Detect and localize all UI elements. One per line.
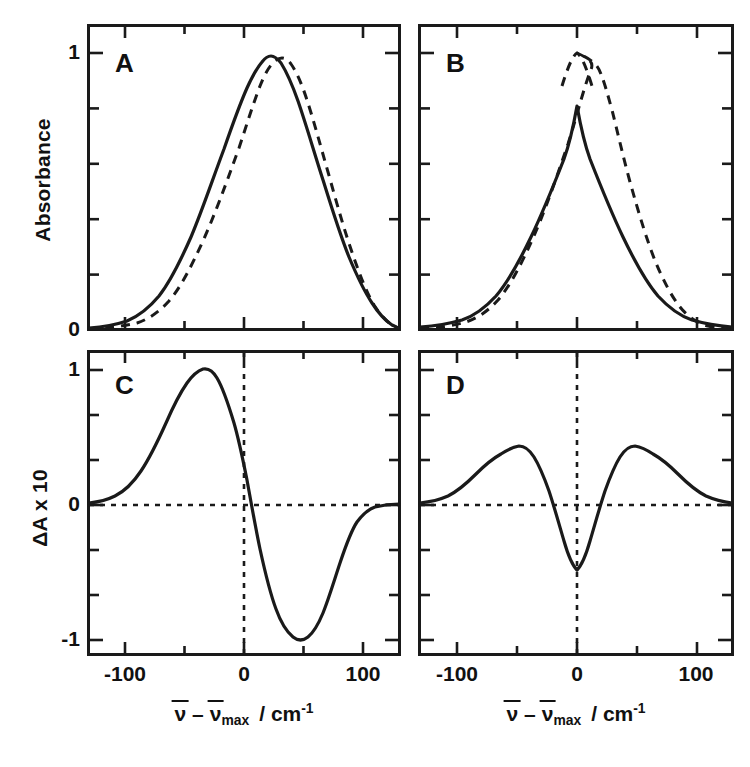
- x-axis-title-left: ν–νmax/ cm-1: [87, 700, 401, 728]
- panel-letter-c: C: [115, 370, 134, 400]
- x-tick-c-minus100: -100: [85, 662, 165, 686]
- x-axis-title-right: ν–νmax/ cm-1: [418, 700, 734, 728]
- panel-a: A: [87, 24, 401, 331]
- panel-letter-d: D: [446, 370, 465, 400]
- panel-c: C: [87, 350, 401, 656]
- y-axis-label-absorbance: Absorbance: [31, 90, 55, 270]
- panel-letter-a: A: [115, 48, 134, 78]
- y-tick-bottom-0: 0: [40, 492, 80, 516]
- x-title-exponent: -1: [301, 700, 313, 716]
- nu-bar-symbol-3: ν: [506, 702, 518, 726]
- nu-bar-symbol-2: ν: [210, 702, 222, 726]
- x-tick-d-zero: 0: [547, 662, 607, 686]
- panel-b: B: [418, 24, 734, 331]
- nu-bar-symbol-4: ν: [542, 702, 554, 726]
- x-tick-d-plus100: 100: [661, 662, 731, 686]
- y-tick-top-0: 0: [40, 317, 80, 341]
- panel-b-plot: B: [418, 24, 734, 331]
- panel-letter-b: B: [446, 48, 465, 78]
- x-title-max-subscript-2: max: [553, 712, 581, 728]
- panel-a-frame: [89, 26, 400, 330]
- y-tick-bottom-minus1: -1: [30, 627, 80, 651]
- x-tick-d-minus100: -100: [417, 662, 497, 686]
- x-tick-c-plus100: 100: [328, 662, 398, 686]
- panel-b-frame: [420, 26, 733, 330]
- x-tick-c-zero: 0: [214, 662, 274, 686]
- y-tick-bottom-1: 1: [40, 357, 80, 381]
- panel-c-plot: C: [87, 350, 401, 656]
- x-title-minus-2: –: [524, 702, 536, 725]
- x-title-units-2: / cm: [591, 702, 633, 725]
- nu-bar-symbol-1: ν: [174, 702, 186, 726]
- figure-root: Absorbance ΔA x 10 1 0 1 0 -1: [0, 0, 750, 767]
- x-title-exponent-2: -1: [633, 700, 645, 716]
- x-title-units: / cm: [259, 702, 301, 725]
- x-title-minus: –: [192, 702, 204, 725]
- panel-d: D: [418, 350, 734, 656]
- panel-d-plot: D: [418, 350, 734, 656]
- x-title-max-subscript: max: [221, 712, 249, 728]
- y-tick-top-1: 1: [40, 40, 80, 64]
- panel-a-plot: A: [87, 24, 401, 331]
